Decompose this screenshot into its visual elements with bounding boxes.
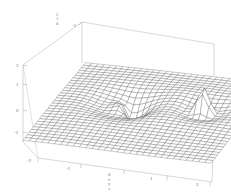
tick-label-bottom-4: 2 [196,182,199,187]
tick-label-left-0: 2 [16,63,19,68]
tick-label-left-1: 1 [16,82,19,87]
tick-label-left-2: 0 [16,108,19,113]
tick-label-bottom-1: -1 [66,166,70,171]
tick-label-back-0: -1 [72,23,76,28]
x-axis-label-stack: xyz [108,178,110,191]
surface-plot-canvas [0,0,231,194]
x-stack-item-2: z [108,187,110,191]
tick-label-bottom-3: 1 [150,176,153,181]
tick-label-left-3: -1 [14,130,18,135]
z-axis-label-stack: 210 [56,13,58,26]
tick-label-bottom-0: -2 [27,158,31,163]
z-stack-item-2: 0 [56,22,58,26]
surface-plot-figure: -2-1012210-1-1 210 xyz [0,0,231,194]
